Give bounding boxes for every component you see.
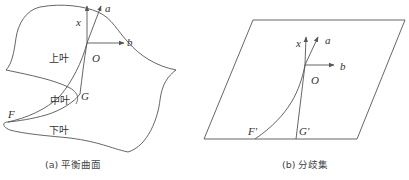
label-x-b: x: [296, 38, 301, 49]
label-f: F: [8, 109, 15, 120]
label-a-a: a: [105, 3, 111, 14]
label-g-prime: G': [299, 126, 309, 137]
label-origin-b: O: [311, 75, 319, 86]
a-axis-arrow-b: [305, 37, 318, 65]
caption-panel-a: (a) 平衡曲面: [45, 160, 101, 170]
a-axis-arrow-a: [87, 6, 101, 43]
label-lower-leaf: 下叶: [49, 126, 69, 136]
panel-b-bifurcation-set: [204, 20, 405, 139]
label-f-prime: F': [248, 126, 257, 137]
label-a-b: a: [325, 35, 331, 46]
label-b-a: b: [127, 37, 133, 48]
panel-a-equilibrium-surface: [4, 5, 176, 152]
control-plane: [204, 20, 405, 139]
label-origin-a: O: [92, 53, 100, 64]
label-g: G: [81, 91, 89, 102]
caption-panel-b: (b) 分歧集: [282, 160, 328, 170]
label-upper-leaf: 上叶: [49, 54, 69, 64]
x-axis-arrow-b: [305, 37, 306, 65]
label-x-a: x: [76, 17, 81, 28]
label-b-b: b: [340, 61, 346, 72]
surface-outline: [4, 5, 176, 152]
fold-line-of: [8, 43, 87, 122]
diagram-canvas: [0, 0, 409, 180]
fold-line-og: [80, 43, 87, 94]
label-middle-leaf: 中叶: [50, 96, 70, 106]
